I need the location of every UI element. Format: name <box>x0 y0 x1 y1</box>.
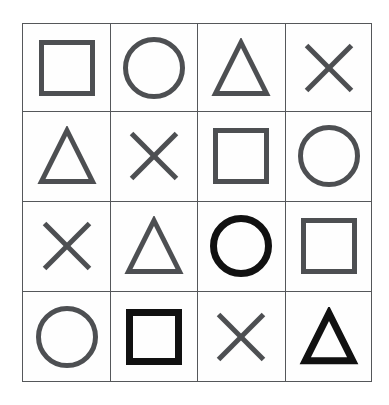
cross-icon <box>41 220 93 272</box>
grid-outer-border <box>22 23 372 382</box>
grid-cell-r1-c3 <box>197 24 285 111</box>
square-icon <box>301 218 357 274</box>
grid-cell-r2-c4 <box>285 111 373 201</box>
square-icon <box>213 128 269 184</box>
circle-icon <box>36 306 98 368</box>
grid-cell-r3-c1 <box>23 201 110 291</box>
grid-cell-r2-c1 <box>23 111 110 201</box>
grid-cell-r4-c3 <box>197 291 285 383</box>
triangle-icon <box>211 38 271 98</box>
triangle-icon <box>37 126 97 186</box>
cross-icon <box>128 130 180 182</box>
grid-cell-r1-c1 <box>23 24 110 111</box>
grid-cell-r1-c2 <box>110 24 197 111</box>
shape-matrix-figure <box>0 0 389 405</box>
grid-cell-r1-c4 <box>285 24 373 111</box>
circle-icon <box>123 37 185 99</box>
grid-cell-r3-c2 <box>110 201 197 291</box>
cross-icon <box>215 311 267 363</box>
grid-cell-r2-c3 <box>197 111 285 201</box>
grid-cell-r3-c3 <box>197 201 285 291</box>
grid-inner-area <box>23 24 371 381</box>
cross-icon <box>303 42 355 94</box>
grid-cell-r4-c1 <box>23 291 110 383</box>
triangle-icon <box>299 307 359 367</box>
circle-icon <box>298 125 360 187</box>
triangle-icon <box>124 216 184 276</box>
grid-cell-r4-c4 <box>285 291 373 383</box>
circle-icon <box>210 215 272 277</box>
grid-cell-r4-c2 <box>110 291 197 383</box>
grid-cell-r3-c4 <box>285 201 373 291</box>
grid-cell-r2-c2 <box>110 111 197 201</box>
square-icon <box>39 40 95 96</box>
square-icon <box>126 309 182 365</box>
